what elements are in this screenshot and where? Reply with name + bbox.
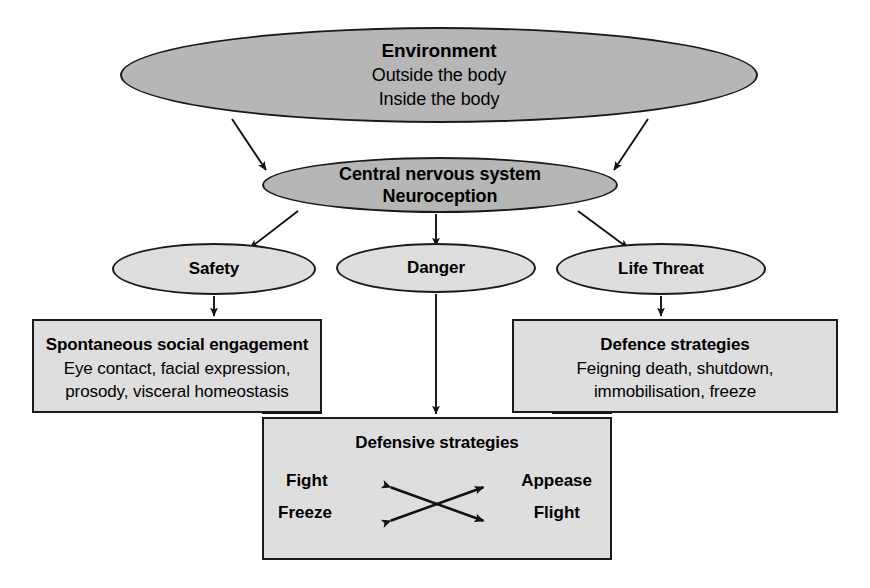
node-defensive-strategies-title: Defensive strategies xyxy=(355,433,518,453)
node-safety[interactable]: Safety xyxy=(112,243,316,295)
node-cns-title: Central nervous system xyxy=(339,163,541,185)
node-environment-line-2: Inside the body xyxy=(379,87,500,111)
node-danger-title: Danger xyxy=(407,258,465,278)
node-environment-line-1: Outside the body xyxy=(372,63,507,87)
defensive-quadrant: Fight Appease Freeze Flight xyxy=(264,469,610,541)
edge-cns-to-life-threat xyxy=(578,211,628,248)
node-danger[interactable]: Danger xyxy=(336,243,536,293)
node-defence-strategies[interactable]: Defence strategies Feigning death, shutd… xyxy=(512,319,838,413)
edge-environment-to-cns-right xyxy=(614,119,648,170)
quadrant-label-freeze: Freeze xyxy=(278,503,332,523)
node-social-engagement-line-1: Eye contact, facial expression, xyxy=(64,357,291,380)
quadrant-label-flight: Flight xyxy=(534,503,580,523)
node-life-threat[interactable]: Life Threat xyxy=(556,243,766,295)
node-social-engagement-line-2: prosody, visceral homeostasis xyxy=(65,380,289,403)
node-environment[interactable]: Environment Outside the body Inside the … xyxy=(120,27,758,123)
node-life-threat-title: Life Threat xyxy=(618,259,704,279)
diagram-canvas: Environment Outside the body Inside the … xyxy=(0,0,870,588)
quadrant-label-fight: Fight xyxy=(286,471,328,491)
node-defensive-strategies[interactable]: Defensive strategies Fight Appease Freez… xyxy=(262,417,612,560)
edge-environment-to-cns-left xyxy=(232,119,266,170)
node-safety-title: Safety xyxy=(189,259,239,279)
node-social-engagement[interactable]: Spontaneous social engagement Eye contac… xyxy=(32,319,322,413)
quadrant-label-appease: Appease xyxy=(521,471,592,491)
node-central-nervous-system[interactable]: Central nervous system Neuroception xyxy=(262,157,618,213)
node-defence-strategies-line-1: Feigning death, shutdown, xyxy=(577,357,774,380)
node-defence-strategies-line-2: immobilisation, freeze xyxy=(594,380,756,403)
node-social-engagement-title: Spontaneous social engagement xyxy=(46,335,309,355)
node-cns-subtitle: Neuroception xyxy=(383,185,498,207)
node-defence-strategies-title: Defence strategies xyxy=(600,335,749,355)
node-environment-title: Environment xyxy=(381,40,496,62)
edge-cns-to-safety xyxy=(250,211,298,248)
